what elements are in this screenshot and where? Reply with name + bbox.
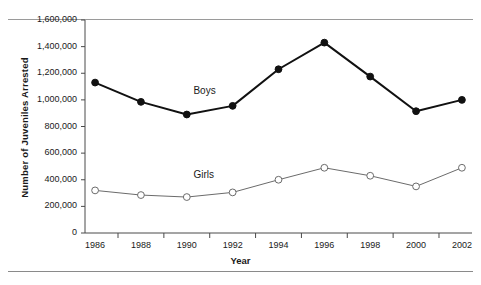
y-tick-label: 800,000 — [0, 121, 77, 131]
y-axis-title: Number of Juveniles Arrested — [19, 28, 30, 228]
x-tick-label: 1996 — [302, 240, 346, 250]
chart-axes — [85, 20, 472, 233]
x-tick-label: 1998 — [348, 240, 392, 250]
chart-figure: 0200,000400,000600,000800,0001,000,0001,… — [0, 0, 481, 285]
x-tick-label: 1986 — [73, 240, 117, 250]
x-tick-label: 2000 — [394, 240, 438, 250]
axis-tick-marks — [81, 20, 439, 238]
x-tick-label: 1994 — [257, 240, 301, 250]
y-tick-label: 1,200,000 — [0, 67, 77, 77]
y-tick-label: 200,000 — [0, 200, 77, 210]
y-tick-label: 400,000 — [0, 174, 77, 184]
series-label: Girls — [193, 169, 214, 180]
y-tick-label: 1,600,000 — [0, 14, 77, 24]
x-axis-title: Year — [0, 255, 481, 266]
y-tick-label: 600,000 — [0, 147, 77, 157]
x-tick-label: 2002 — [440, 240, 481, 250]
series-label: Boys — [193, 85, 215, 96]
x-tick-label: 1990 — [165, 240, 209, 250]
y-tick-label: 1,400,000 — [0, 41, 77, 51]
y-tick-label: 1,000,000 — [0, 94, 77, 104]
x-tick-label: 1992 — [211, 240, 255, 250]
data-series-layer — [92, 39, 466, 200]
x-tick-label: 1988 — [119, 240, 163, 250]
y-tick-label: 0 — [0, 227, 77, 237]
